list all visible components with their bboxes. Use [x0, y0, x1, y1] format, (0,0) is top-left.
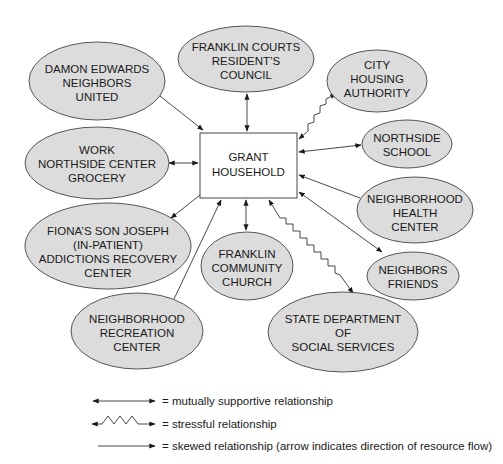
svg-text:NEIGHBORS: NEIGHBORS	[378, 264, 447, 276]
node-northside-school: NORTHSIDE SCHOOL	[362, 120, 452, 168]
edge-damon-grant	[160, 96, 203, 130]
svg-text:HOUSING: HOUSING	[350, 73, 404, 85]
node-state-social-services: STATE DEPARTMENT OF SOCIAL SERVICES	[268, 292, 418, 372]
node-damon-edwards: DAMON EDWARDS NEIGHBORS UNITED	[29, 42, 165, 120]
legend-mutual-label: = mutually supportive relationship	[162, 395, 333, 407]
svg-text:CENTER: CENTER	[113, 341, 160, 353]
svg-text:GROCERY: GROCERY	[68, 172, 126, 184]
center-node-grant-household: GRANT HOUSEHOLD	[200, 133, 297, 198]
node-fiona-recovery-center: FIONA’S SON JOSEPH (IN-PATIENT) ADDICTIO…	[25, 203, 191, 289]
svg-text:UNITED: UNITED	[76, 91, 119, 103]
svg-text:RECREATION: RECREATION	[100, 327, 175, 339]
svg-text:NEIGHBORHOOD: NEIGHBORHOOD	[89, 313, 185, 325]
svg-text:OF: OF	[335, 327, 351, 339]
center-label-line-1: GRANT	[228, 151, 268, 163]
svg-text:FRANKLIN: FRANKLIN	[219, 248, 276, 260]
svg-text:COUNCIL: COUNCIL	[220, 69, 272, 81]
svg-text:NORTHSIDE: NORTHSIDE	[373, 132, 441, 144]
svg-text:FRANKLIN COURTS: FRANKLIN COURTS	[192, 41, 301, 53]
svg-text:ADDICTIONS RECOVERY: ADDICTIONS RECOVERY	[39, 253, 178, 265]
node-neighbors-friends: NEIGHBORS FRIENDS	[367, 252, 459, 300]
svg-text:RESIDENT’S: RESIDENT’S	[212, 55, 281, 67]
edge-grant-fiona	[171, 195, 200, 218]
svg-text:DAMON EDWARDS: DAMON EDWARDS	[45, 63, 150, 75]
svg-text:CHURCH: CHURCH	[222, 276, 272, 288]
legend-stressful-label: = stressful relationship	[162, 418, 277, 430]
node-recreation-center: NEIGHBORHOOD RECREATION CENTER	[71, 293, 203, 369]
node-health-center: NEIGHBORHOOD HEALTH CENTER	[357, 177, 473, 243]
node-work-grocery: WORK NORTHSIDE CENTER GROCERY	[25, 127, 169, 199]
svg-text:FIONA’S SON JOSEPH: FIONA’S SON JOSEPH	[47, 225, 169, 237]
node-franklin-courts: FRANKLIN COURTS RESIDENT’S COUNCIL	[178, 26, 314, 92]
svg-text:NEIGHBORS: NEIGHBORS	[62, 77, 131, 89]
svg-text:NEIGHBORHOOD: NEIGHBORHOOD	[367, 193, 463, 205]
ecomap-diagram: GRANT HOUSEHOLD DAMON EDWARDS NEIGHBORS …	[0, 0, 503, 464]
legend-stressful	[92, 416, 155, 424]
svg-text:CENTER: CENTER	[84, 267, 131, 279]
svg-text:COMMUNITY: COMMUNITY	[212, 262, 283, 274]
svg-text:NORTHSIDE CENTER: NORTHSIDE CENTER	[38, 158, 156, 170]
svg-text:WORK: WORK	[79, 144, 115, 156]
svg-text:SCHOOL: SCHOOL	[383, 146, 432, 158]
legend: = mutually supportive relationship = str…	[92, 395, 492, 452]
node-city-housing: CITY HOUSING AUTHORITY	[327, 50, 427, 112]
svg-text:FRIENDS: FRIENDS	[388, 278, 439, 290]
edge-school-grant	[299, 145, 361, 152]
node-franklin-church: FRANKLIN COMMUNITY CHURCH	[201, 232, 293, 300]
svg-text:(IN-PATIENT): (IN-PATIENT)	[73, 239, 143, 251]
edge-housing-grant	[299, 94, 336, 139]
svg-text:STATE DEPARTMENT: STATE DEPARTMENT	[285, 313, 402, 325]
legend-skewed-label: = skewed relationship (arrow indicates d…	[162, 440, 492, 452]
svg-text:CENTER: CENTER	[391, 221, 438, 233]
svg-text:CITY: CITY	[364, 59, 391, 71]
svg-text:SOCIAL SERVICES: SOCIAL SERVICES	[292, 341, 395, 353]
legend-stressful-arrow-icon	[92, 416, 155, 424]
edge-health-grant	[299, 175, 360, 198]
svg-text:AUTHORITY: AUTHORITY	[344, 87, 411, 99]
center-label-line-2: HOUSEHOLD	[212, 166, 285, 178]
svg-text:HEALTH: HEALTH	[393, 207, 438, 219]
